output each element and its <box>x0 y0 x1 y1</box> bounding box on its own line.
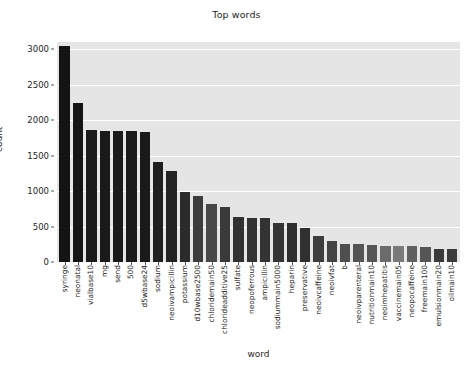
bar <box>434 249 444 262</box>
x-tick-slot: oilmain10 <box>445 265 458 340</box>
x-tick-slot: vialbase10 <box>85 265 98 340</box>
y-tick-label: 1000 <box>27 186 49 196</box>
x-tick-slot: vaccinemain05 <box>392 265 405 340</box>
x-tick-slot: nutritionmain10 <box>365 265 378 340</box>
x-tick-label: syringe <box>61 265 68 292</box>
y-axis-ticks: 050010001500200025003000 <box>0 42 54 262</box>
bar-series <box>57 42 460 262</box>
bar <box>100 131 110 262</box>
bar-slot <box>152 42 165 262</box>
bar-slot <box>419 42 432 262</box>
x-tick-label: potassium <box>181 265 188 303</box>
x-tick-label: d10wbase2500 <box>195 265 202 322</box>
x-tick-slot: b <box>339 265 352 340</box>
chart-title: Top words <box>0 9 473 20</box>
x-tick-slot: mg <box>98 265 111 340</box>
bar <box>380 246 390 262</box>
x-tick-label: send <box>114 265 121 283</box>
bar-slot <box>272 42 285 262</box>
bar <box>447 249 457 262</box>
x-tick-slot: neoimhepatitis <box>379 265 392 340</box>
bar <box>260 218 270 262</box>
bar <box>73 103 83 262</box>
x-tick-label: vaccinemain05 <box>395 265 402 321</box>
x-tick-slot: neopoferrous <box>245 265 258 340</box>
bar <box>193 196 203 262</box>
x-tick-slot: d5wbase24 <box>138 265 151 340</box>
x-tick-label: vialbase10 <box>88 265 95 305</box>
x-tick-slot: neoivfat <box>325 265 338 340</box>
x-tick-slot: d10wbase2500 <box>192 265 205 340</box>
x-tick-slot: emulsionmain20 <box>432 265 445 340</box>
x-tick-label: neopocaffeine <box>408 265 415 317</box>
bar-slot <box>285 42 298 262</box>
x-tick-slot: sodium <box>152 265 165 340</box>
x-tick-slot: chloridemain50 <box>205 265 218 340</box>
x-tick-label: mg <box>101 265 108 277</box>
y-tick-label: 3000 <box>27 44 49 54</box>
y-tick-mark <box>51 49 54 50</box>
bar <box>247 218 257 262</box>
bar-slot <box>392 42 405 262</box>
y-tick-label: 500 <box>33 222 49 232</box>
x-tick-label: emulsionmain20 <box>435 265 442 326</box>
x-tick-label: chlorideadditive25 <box>221 265 228 334</box>
x-tick-label: freemain100 <box>422 265 429 312</box>
bar-slot <box>339 42 352 262</box>
bar <box>59 46 69 262</box>
x-tick-slot: neoivparenteral <box>352 265 365 340</box>
bar-slot <box>192 42 205 262</box>
bar-slot <box>85 42 98 262</box>
x-tick-slot: heparin <box>285 265 298 340</box>
bar-slot <box>58 42 71 262</box>
y-tick-label: 2500 <box>27 80 49 90</box>
bar-slot <box>138 42 151 262</box>
bar-slot <box>365 42 378 262</box>
bar-slot <box>218 42 231 262</box>
x-tick-label: neonatal <box>74 265 81 297</box>
x-tick-label: 500 <box>128 265 135 279</box>
x-tick-slot: syringe <box>58 265 71 340</box>
x-axis-ticks: syringeneonatalvialbase10mgsend500d5wbas… <box>57 265 460 340</box>
x-tick-label: sodium <box>154 265 161 292</box>
x-tick-label: neoivcaffeine <box>315 265 322 315</box>
x-tick-label: sulfate <box>235 265 242 290</box>
bar-slot <box>379 42 392 262</box>
y-tick-mark <box>51 262 54 263</box>
x-tick-label: ampicillin <box>261 265 268 300</box>
bar-slot <box>205 42 218 262</box>
bar-slot <box>232 42 245 262</box>
y-tick-label: 0 <box>44 257 49 267</box>
x-tick-slot: neoivampicillin <box>165 265 178 340</box>
x-tick-slot: potassium <box>178 265 191 340</box>
x-tick-slot: sulfate <box>232 265 245 340</box>
bar <box>300 228 310 262</box>
bar <box>166 171 176 262</box>
y-tick-label: 1500 <box>27 151 49 161</box>
y-tick-mark <box>51 84 54 85</box>
x-tick-label: b <box>342 265 349 270</box>
chart-figure: Top words count 050010001500200025003000… <box>0 0 473 375</box>
bar <box>233 217 243 262</box>
bar <box>353 244 363 262</box>
bar-slot <box>325 42 338 262</box>
plot-area <box>57 42 460 262</box>
x-tick-label: sodiummain5000 <box>275 265 282 329</box>
bar <box>126 131 136 262</box>
x-tick-slot: neonatal <box>71 265 84 340</box>
bar <box>313 236 323 262</box>
x-tick-label: neopoferrous <box>248 265 255 314</box>
bar <box>287 223 297 262</box>
bar <box>273 223 283 262</box>
x-tick-label: oilmain10 <box>448 265 455 302</box>
bar-slot <box>125 42 138 262</box>
x-tick-label: d5wbase24 <box>141 265 148 307</box>
x-axis-label: word <box>57 349 460 359</box>
bar-slot <box>312 42 325 262</box>
bar <box>327 241 337 262</box>
x-tick-slot: ampicillin <box>258 265 271 340</box>
bar <box>367 245 377 262</box>
bar-slot <box>405 42 418 262</box>
y-tick-mark <box>51 226 54 227</box>
bar-slot <box>352 42 365 262</box>
